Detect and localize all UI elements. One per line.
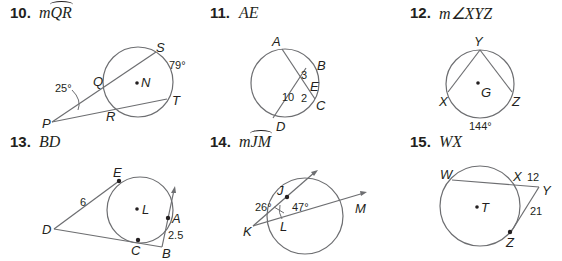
svg-text:P: P xyxy=(42,116,51,131)
svg-text:C: C xyxy=(131,243,141,258)
svg-text:A: A xyxy=(271,34,281,49)
problem-14: 14. mJM J 26° 47° M K L xyxy=(210,133,397,261)
svg-text:79°: 79° xyxy=(169,59,186,71)
svg-text:47°: 47° xyxy=(292,201,309,213)
svg-text:R: R xyxy=(106,109,115,124)
problem-15: 15. WX W X 12 Y T 21 Z xyxy=(410,133,562,261)
svg-text:L: L xyxy=(142,202,149,217)
problem-12: 12. m∠XYZ Y X G Z 144° xyxy=(410,4,562,134)
problem-11: 11. AE A B 3 E 10 2 C D xyxy=(210,4,397,134)
svg-text:T: T xyxy=(172,93,181,108)
svg-text:26°: 26° xyxy=(255,201,272,213)
svg-text:21: 21 xyxy=(530,205,542,217)
svg-text:B: B xyxy=(317,58,326,73)
svg-text:Z: Z xyxy=(511,94,521,109)
svg-text:X: X xyxy=(438,94,449,109)
svg-text:A: A xyxy=(171,211,181,226)
svg-text:D: D xyxy=(42,222,51,237)
svg-text:Q: Q xyxy=(93,74,103,89)
svg-text:J: J xyxy=(276,183,284,198)
svg-text:X: X xyxy=(512,169,523,184)
svg-text:3: 3 xyxy=(301,69,307,81)
svg-text:W: W xyxy=(440,167,454,182)
secant-secant-diagram: S 79° Q N 25° T P R xyxy=(10,4,197,134)
svg-text:N: N xyxy=(141,75,151,90)
svg-text:M: M xyxy=(355,201,366,216)
svg-text:S: S xyxy=(156,40,165,55)
svg-text:Y: Y xyxy=(474,34,484,49)
svg-text:6: 6 xyxy=(80,196,86,208)
svg-text:G: G xyxy=(481,85,491,100)
problem-10: 10. mQR S 79° Q N 25° T P R xyxy=(10,4,197,134)
secant-tangent-segments-diagram: W X 12 Y T 21 Z xyxy=(410,133,562,261)
svg-text:144°: 144° xyxy=(469,120,492,132)
svg-text:2.5: 2.5 xyxy=(168,229,183,241)
svg-text:D: D xyxy=(276,119,285,134)
svg-text:10: 10 xyxy=(282,91,294,103)
svg-text:E: E xyxy=(310,79,319,94)
svg-text:2: 2 xyxy=(301,92,307,104)
svg-text:T: T xyxy=(481,200,490,215)
problem-13: 13. BD E 6 L A D 2.5 C B xyxy=(10,133,197,261)
svg-text:K: K xyxy=(243,224,253,239)
secant-tangent-diagram: J 26° 47° M K L xyxy=(210,133,397,261)
intersecting-chords-diagram: A B 3 E 10 2 C D xyxy=(210,4,397,134)
svg-text:B: B xyxy=(162,246,171,261)
svg-text:12: 12 xyxy=(527,171,539,183)
svg-text:L: L xyxy=(280,219,287,234)
svg-text:25°: 25° xyxy=(55,82,72,94)
svg-text:E: E xyxy=(113,165,122,180)
tangent-segments-diagram: E 6 L A D 2.5 C B xyxy=(10,133,197,261)
svg-text:Z: Z xyxy=(505,235,515,250)
inscribed-angle-diagram: Y X G Z 144° xyxy=(410,4,562,134)
svg-text:Y: Y xyxy=(542,183,552,198)
svg-text:C: C xyxy=(316,98,326,113)
